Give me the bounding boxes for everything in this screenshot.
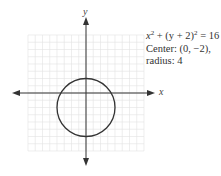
equation-line: x2 + (y + 2)2 = 16 bbox=[146, 30, 219, 43]
y-axis-up-arrow-icon bbox=[83, 17, 89, 25]
x-axis-left-arrow-icon bbox=[12, 90, 20, 96]
y-axis-down-arrow-icon bbox=[83, 158, 89, 166]
x-axis-right-arrow-icon bbox=[147, 90, 155, 96]
center-text: Center: (0, −2), bbox=[146, 43, 219, 56]
radius-text: radius: 4 bbox=[146, 55, 219, 68]
y-axis-label: y bbox=[83, 6, 87, 17]
x-axis-label: x bbox=[159, 86, 163, 97]
equation-annotation: x2 + (y + 2)2 = 16 Center: (0, −2), radi… bbox=[146, 30, 219, 68]
coordinate-plane bbox=[0, 0, 221, 176]
